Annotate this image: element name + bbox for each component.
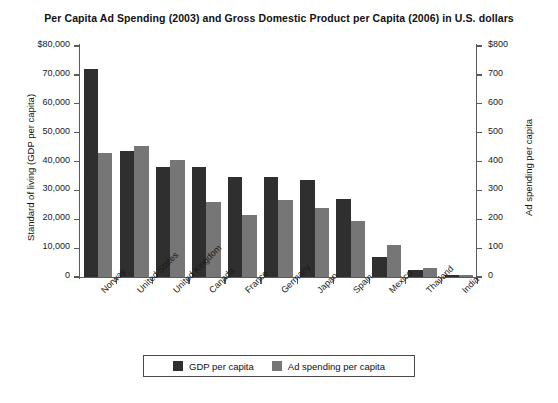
y-axis-right-tick-label: 0 [488, 270, 493, 280]
legend-item-gdp: GDP per capita [173, 361, 254, 372]
y-axis-right-tick-label: 300 [488, 183, 503, 193]
bar-group [224, 46, 260, 277]
y-axis-left-tick-label: 20,000 [42, 212, 70, 222]
chart-container: Per Capita Ad Spending (2003) and Gross … [0, 0, 558, 403]
bar-group [333, 46, 369, 277]
bar-gdp-per-capita [300, 180, 314, 277]
chart-legend: GDP per capita Ad spending per capita [143, 355, 415, 377]
legend-item-ad-spending: Ad spending per capita [272, 361, 385, 372]
y-axis-left-tick-label: $80,000 [37, 39, 70, 49]
bar-group [369, 46, 405, 277]
bar-gdp-per-capita [372, 257, 386, 277]
y-axis-left-tick-label: 50,000 [42, 126, 70, 136]
legend-label-gdp: GDP per capita [189, 361, 254, 372]
y-axis-right-tick-label: 700 [488, 68, 503, 78]
x-axis-line [79, 277, 478, 278]
legend-label-ad-spending: Ad spending per capita [288, 361, 385, 372]
bar-group [297, 46, 333, 277]
bar-gdp-per-capita [84, 69, 98, 277]
bar-group [441, 46, 477, 277]
y-axis-right-title: Ad spending per capita [523, 58, 534, 278]
y-axis-right-tick-label: 400 [488, 155, 503, 165]
bar-group [152, 46, 188, 277]
legend-swatch-ad-spending [272, 361, 282, 371]
bar-gdp-per-capita [120, 151, 134, 277]
y-axis-right-tick-label: 100 [488, 241, 503, 251]
bar-gdp-per-capita [336, 199, 350, 277]
bars-layer [80, 46, 477, 277]
bar-group [405, 46, 441, 277]
y-axis-left-title: Standard of living (GDP per capita) [25, 58, 36, 278]
bar-ad-spending-per-capita [351, 221, 365, 277]
bar-ad-spending-per-capita [206, 202, 220, 277]
bar-ad-spending-per-capita [242, 215, 256, 277]
y-axis-right-tick-label: $800 [488, 39, 508, 49]
legend-swatch-gdp [173, 361, 183, 371]
bar-group [116, 46, 152, 277]
bar-group [188, 46, 224, 277]
bar-group [80, 46, 116, 277]
bar-gdp-per-capita [228, 177, 242, 277]
bar-ad-spending-per-capita [98, 153, 112, 277]
y-axis-left-tick-label: 60,000 [42, 97, 70, 107]
y-axis-left-tick-label: 30,000 [42, 183, 70, 193]
bar-ad-spending-per-capita [134, 146, 148, 277]
bar-ad-spending-per-capita [387, 245, 401, 277]
y-axis-right-tick-label: 200 [488, 212, 503, 222]
bar-group [260, 46, 296, 277]
y-axis-left-tick-label: 40,000 [42, 155, 70, 165]
y-axis-left-tick-label: 0 [65, 270, 70, 280]
y-axis-right-tick-label: 500 [488, 126, 503, 136]
y-axis-right-tick-label: 600 [488, 97, 503, 107]
y-axis-left-tick-label: 10,000 [42, 241, 70, 251]
bar-ad-spending-per-capita [278, 200, 292, 277]
bar-gdp-per-capita [264, 177, 278, 277]
bar-ad-spending-per-capita [315, 208, 329, 277]
chart-title: Per Capita Ad Spending (2003) and Gross … [0, 12, 558, 24]
y-axis-left-tick-label: 70,000 [42, 68, 70, 78]
